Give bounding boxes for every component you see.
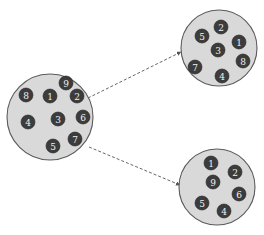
node-5: 5	[46, 139, 60, 153]
node-4: 4	[21, 115, 35, 129]
node-label: 9	[63, 79, 69, 89]
node-7: 7	[188, 60, 202, 74]
node-label: 6	[80, 113, 86, 123]
node-label: 3	[215, 46, 221, 56]
node-label: 2	[232, 168, 238, 178]
dashed-arrow-target-top	[88, 52, 181, 98]
node-label: 6	[236, 190, 242, 200]
node-label: 7	[72, 135, 78, 145]
cluster-diagram: 9812436752513874129654	[0, 0, 264, 235]
node-6: 6	[76, 110, 90, 124]
edges-layer	[88, 52, 181, 185]
node-2: 2	[228, 165, 242, 179]
cluster-target-bottom: 129654	[179, 149, 255, 225]
node-label: 3	[55, 115, 61, 125]
node-label: 5	[199, 199, 205, 209]
dashed-arrow-target-bottom	[89, 147, 180, 185]
node-label: 7	[192, 63, 198, 73]
node-4: 4	[215, 69, 229, 83]
node-label: 4	[219, 72, 225, 82]
node-8: 8	[236, 54, 250, 68]
node-7: 7	[68, 132, 82, 146]
node-label: 4	[221, 207, 227, 217]
node-label: 4	[25, 118, 31, 128]
node-label: 5	[199, 32, 205, 42]
node-1: 1	[232, 35, 246, 49]
node-label: 1	[208, 159, 214, 169]
node-1: 1	[43, 89, 57, 103]
node-3: 3	[211, 43, 225, 57]
node-label: 9	[210, 178, 216, 188]
node-label: 1	[47, 92, 53, 102]
node-4: 4	[217, 204, 231, 218]
node-label: 5	[50, 142, 56, 152]
node-2: 2	[214, 20, 228, 34]
node-9: 9	[206, 175, 220, 189]
node-9: 9	[59, 76, 73, 90]
node-label: 2	[218, 23, 224, 33]
node-label: 8	[240, 57, 246, 67]
node-6: 6	[232, 187, 246, 201]
node-label: 2	[74, 92, 80, 102]
cluster-source: 981243675	[7, 74, 93, 160]
node-label: 8	[23, 91, 29, 101]
node-5: 5	[195, 196, 209, 210]
diagram-canvas: 9812436752513874129654	[0, 0, 264, 235]
clusters-layer: 9812436752513874129654	[7, 10, 257, 225]
node-3: 3	[51, 112, 65, 126]
node-2: 2	[70, 89, 84, 103]
node-label: 1	[236, 38, 242, 48]
cluster-target-top: 2513874	[181, 10, 257, 86]
node-8: 8	[19, 88, 33, 102]
node-5: 5	[195, 29, 209, 43]
node-1: 1	[204, 156, 218, 170]
